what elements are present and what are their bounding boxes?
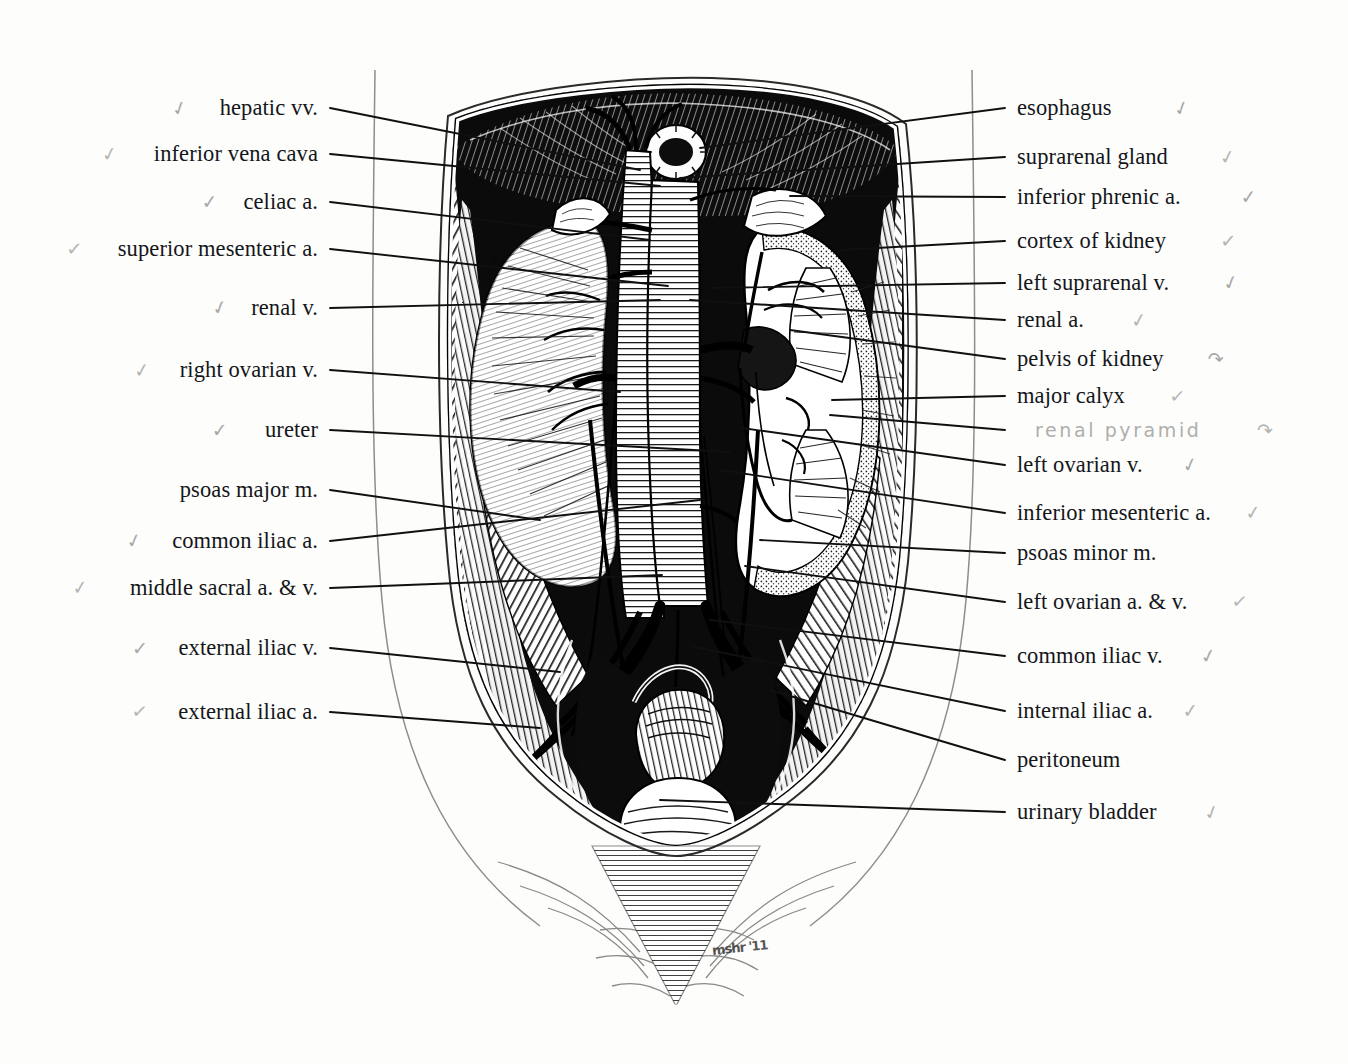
label-text: major calyx [1017,385,1125,408]
anatomy-label-celiac-a[interactable]: celiac a. [243,191,318,214]
anatomy-label-left-ovarian-v[interactable]: left ovarian v. [1017,454,1143,477]
pubic-region [592,846,760,1006]
anatomy-label-inferior-mesenteric-a[interactable]: inferior mesenteric a. [1017,502,1211,525]
anatomy-label-hepatic-vv[interactable]: hepatic vv. [220,97,318,120]
anatomy-label-ureter[interactable]: ureter [265,419,318,442]
anatomy-label-right-ovarian-v[interactable]: right ovarian v. [180,359,318,382]
anatomy-label-external-iliac-a[interactable]: external iliac a. [178,701,318,724]
label-text: pelvis of kidney [1017,348,1164,371]
anatomy-label-common-iliac-a[interactable]: common iliac a. [172,530,318,553]
anatomy-label-renal-v[interactable]: renal v. [251,297,318,320]
label-text: psoas major m. [180,479,318,502]
label-text: inferior mesenteric a. [1017,502,1211,525]
label-text: celiac a. [243,191,318,214]
anatomy-label-inferior-phrenic-a[interactable]: inferior phrenic a. [1017,186,1181,209]
label-text: left ovarian v. [1017,454,1143,477]
anatomy-label-psoas-major-m[interactable]: psoas major m. [180,479,318,502]
anatomy-label-left-ovarian-a-v[interactable]: left ovarian a. & v. [1017,591,1187,614]
leader-line [790,196,1005,197]
anatomy-label-external-iliac-v[interactable]: external iliac v. [178,637,318,660]
abdominal-cavity [440,70,920,876]
label-text: common iliac a. [172,530,318,553]
label-text: renal v. [251,297,318,320]
anatomy-label-superior-mesenteric-a[interactable]: superior mesenteric a. [118,238,318,261]
anatomy-label-suprarenal-gland[interactable]: suprarenal gland [1017,146,1168,169]
label-text: external iliac a. [178,701,318,724]
anatomy-label-urinary-bladder[interactable]: urinary bladder [1017,801,1157,824]
label-text: common iliac v. [1017,645,1163,668]
label-text: superior mesenteric a. [118,238,318,261]
handwritten-annotation: renal pyramid [1035,419,1202,441]
label-text: psoas minor m. [1017,542,1157,565]
anatomy-label-peritoneum[interactable]: peritoneum [1017,749,1120,772]
anatomy-label-inferior-vena-cava[interactable]: inferior vena cava [154,143,318,166]
label-text: inferior vena cava [154,143,318,166]
anatomy-label-major-calyx[interactable]: major calyx [1017,385,1125,408]
label-text: peritoneum [1017,749,1120,772]
label-text: hepatic vv. [220,97,318,120]
label-text: suprarenal gland [1017,146,1168,169]
label-text: inferior phrenic a. [1017,186,1181,209]
anatomy-label-cortex-of-kidney[interactable]: cortex of kidney [1017,230,1166,253]
anatomy-label-internal-iliac-a[interactable]: internal iliac a. [1017,700,1153,723]
label-text: left ovarian a. & v. [1017,591,1187,614]
label-text: left suprarenal v. [1017,272,1169,295]
label-text: middle sacral a. & v. [130,577,318,600]
anatomy-label-psoas-minor-m[interactable]: psoas minor m. [1017,542,1157,565]
anatomy-label-left-suprarenal-v[interactable]: left suprarenal v. [1017,272,1169,295]
anatomy-label-middle-sacral-a-v[interactable]: middle sacral a. & v. [130,577,318,600]
label-text: cortex of kidney [1017,230,1166,253]
anatomy-label-esophagus[interactable]: esophagus [1017,97,1112,120]
anatomy-label-common-iliac-v[interactable]: common iliac v. [1017,645,1163,668]
label-text: urinary bladder [1017,801,1157,824]
label-text: renal a. [1017,309,1084,332]
label-text: ureter [265,419,318,442]
label-text: internal iliac a. [1017,700,1153,723]
label-text: external iliac v. [178,637,318,660]
atlas-page: hepatic vv.✓inferior vena cava✓celiac a.… [0,0,1348,1064]
anatomy-label-pelvis-of-kidney[interactable]: pelvis of kidney [1017,348,1164,371]
label-text: esophagus [1017,97,1112,120]
anatomy-label-renal-a[interactable]: renal a. [1017,309,1084,332]
label-text: right ovarian v. [180,359,318,382]
